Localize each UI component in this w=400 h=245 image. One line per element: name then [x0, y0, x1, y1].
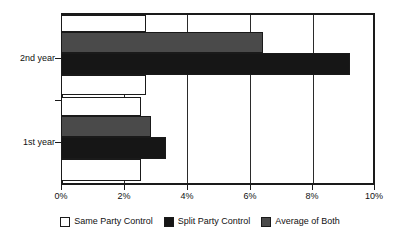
bars-layer	[61, 13, 375, 185]
xtick-label-2: 2%	[104, 191, 144, 202]
legend-label-average-of-both: Average of Both	[275, 216, 339, 227]
bar-2nd-year-average	[61, 32, 263, 53]
ytick-mark-mid	[55, 100, 61, 101]
legend-label-same-party-control: Same Party Control	[74, 216, 153, 227]
xtick-10	[374, 185, 375, 190]
bar-1st-year-same-party	[61, 97, 141, 116]
ytick-mark-1st-year	[55, 142, 61, 143]
xtick-label-6: 6%	[230, 191, 270, 202]
y-axis-labels: 2nd year 1st year	[0, 0, 55, 245]
ytick-mark-2nd-year	[55, 58, 61, 59]
xtick-4	[187, 185, 188, 190]
bar-2nd-year-same-party	[61, 15, 146, 32]
bar-2nd-year-split-party	[61, 53, 350, 75]
xtick-0	[61, 185, 62, 190]
xtick-label-4: 4%	[167, 191, 207, 202]
legend-item-same-party-control: Same Party Control	[60, 216, 153, 227]
bar-chart: 0% 2% 4% 6% 8% 10% 2nd year 1st year Sam…	[0, 0, 400, 245]
bar-1st-year-same-party-2	[61, 159, 141, 181]
chart-legend: Same Party Control Split Party Control A…	[0, 216, 400, 227]
legend-swatch-average-of-both	[261, 217, 271, 227]
bar-1st-year-average	[61, 116, 151, 137]
legend-item-average-of-both: Average of Both	[261, 216, 339, 227]
ytick-label-2nd-year: 2nd year	[3, 53, 55, 64]
legend-swatch-same-party-control	[60, 217, 70, 227]
xtick-2	[124, 185, 125, 190]
legend-item-split-party-control: Split Party Control	[164, 216, 251, 227]
legend-swatch-split-party-control	[164, 217, 174, 227]
xtick-6	[250, 185, 251, 190]
legend-label-split-party-control: Split Party Control	[178, 216, 251, 227]
bar-1st-year-split-party	[61, 137, 166, 159]
bar-2nd-year-same-party-2	[61, 75, 146, 95]
ytick-label-1st-year: 1st year	[3, 137, 55, 148]
xtick-label-10: 10%	[354, 191, 394, 202]
xtick-8	[312, 185, 313, 190]
xtick-label-8: 8%	[292, 191, 332, 202]
